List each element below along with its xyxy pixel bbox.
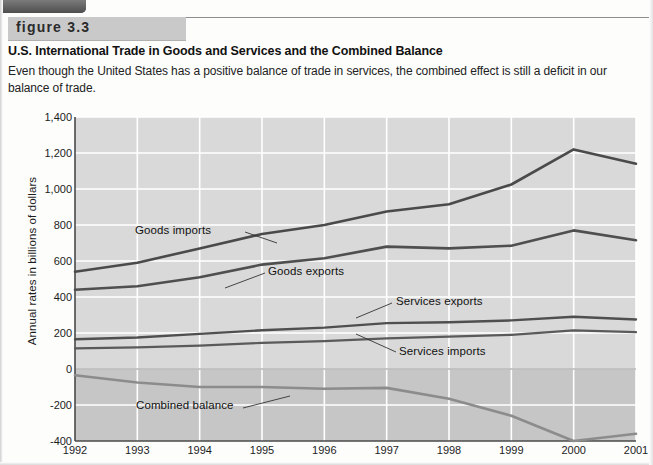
- page-edge-left: [0, 0, 3, 465]
- series-label-services-imports: Services imports: [399, 345, 486, 357]
- figure-page: figure 3.3 U.S. International Trade in G…: [0, 0, 653, 465]
- series-label-services-exports: Services exports: [396, 295, 483, 307]
- series-label-combined-balance: Combined balance: [136, 399, 234, 411]
- page-edge-right: [649, 0, 653, 465]
- chart-area: Annual rates in billions of dollars 1,40…: [0, 0, 653, 465]
- series-label-goods-imports: Goods imports: [135, 224, 211, 236]
- series-label-goods-exports: Goods exports: [268, 265, 344, 277]
- trade-line-chart: [0, 0, 653, 465]
